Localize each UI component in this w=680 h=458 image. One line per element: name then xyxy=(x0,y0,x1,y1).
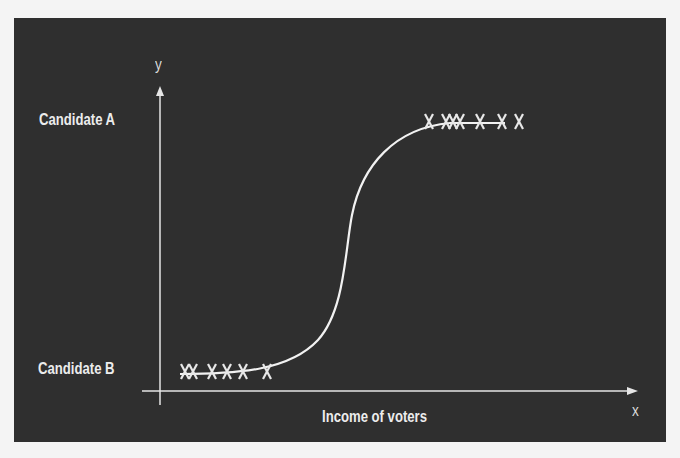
x-marker-icon xyxy=(456,114,464,129)
candidate-a-label: Candidate A xyxy=(39,111,115,129)
logistic-regression-diagram xyxy=(0,0,680,458)
sigmoid-curve xyxy=(180,123,505,374)
candidate-a-markers xyxy=(425,114,523,129)
x-axis-letter: x xyxy=(632,402,639,420)
x-marker-icon xyxy=(208,364,216,379)
x-marker-icon xyxy=(476,114,484,129)
x-marker-icon xyxy=(181,364,189,379)
candidate-b-label: Candidate B xyxy=(38,360,115,378)
y-axis-letter: y xyxy=(155,56,162,74)
x-axis-title: Income of voters xyxy=(322,408,427,426)
y-axis-arrow-icon xyxy=(156,86,164,96)
x-marker-icon xyxy=(515,114,523,129)
x-marker-icon xyxy=(498,114,506,129)
x-marker-icon xyxy=(189,364,197,379)
x-marker-icon xyxy=(449,114,457,129)
x-marker-icon xyxy=(442,114,450,129)
candidate-b-markers xyxy=(181,364,271,379)
x-axis-arrow-icon xyxy=(627,387,638,395)
